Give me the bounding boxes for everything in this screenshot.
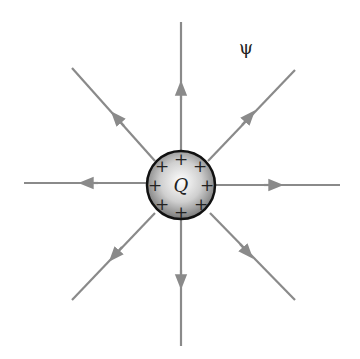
plus-sign: + [174, 149, 188, 169]
plus-sign: + [155, 194, 169, 214]
charge-label: Q [174, 175, 189, 196]
electric-flux-diagram: + + + + + + + + Q ψ [0, 0, 360, 359]
plus-sign: + [193, 156, 207, 176]
field-line-up-right [208, 70, 295, 161]
field-line-up-left [72, 68, 155, 161]
plus-sign: + [200, 175, 214, 195]
field-line-down-right [210, 213, 295, 300]
plus-sign: + [174, 202, 188, 222]
plus-sign: + [155, 156, 169, 176]
flux-label: ψ [239, 37, 253, 58]
plus-sign: + [194, 194, 208, 214]
field-line-down-left [72, 213, 155, 300]
plus-sign: + [148, 175, 162, 195]
